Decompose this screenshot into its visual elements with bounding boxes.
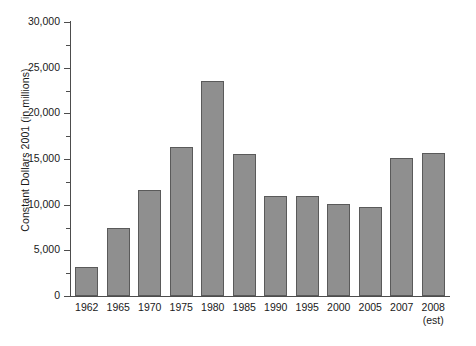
- x-tick-label-text: 1975: [170, 301, 193, 313]
- x-tick-label-text: 2005: [359, 301, 382, 313]
- y-tick-minor: [66, 45, 71, 46]
- bar: [327, 204, 350, 296]
- x-tick-label: 1980: [197, 301, 229, 314]
- x-tick-label-text: 1965: [107, 301, 130, 313]
- x-tick-label: 1962: [71, 301, 103, 314]
- y-tick-minor: [66, 136, 71, 137]
- y-tick-minor: [66, 228, 71, 229]
- y-tick-minor: [66, 273, 71, 274]
- x-tick-label: 1990: [260, 301, 292, 314]
- x-tick-label: 1985: [229, 301, 261, 314]
- y-tick-major: [64, 22, 71, 23]
- bar: [390, 158, 413, 296]
- bar: [233, 154, 256, 296]
- bar: [264, 196, 287, 296]
- y-tick-label-text: 30,000: [4, 15, 60, 27]
- y-tick-label-text: 15,000: [4, 152, 60, 164]
- x-tick-label-text: 1980: [201, 301, 224, 313]
- y-tick-major: [64, 250, 71, 251]
- y-tick-major: [64, 159, 71, 160]
- y-tick-major: [64, 68, 71, 69]
- x-tick-label: 1970: [134, 301, 166, 314]
- x-tick-label: 2008(est): [418, 301, 450, 326]
- y-tick-major: [64, 205, 71, 206]
- y-tick-label-text: 10,000: [4, 198, 60, 210]
- bar: [201, 81, 224, 296]
- bar-chart: Constant Dollars 2001 (in millions) 05,0…: [0, 0, 476, 346]
- y-tick-major: [64, 296, 71, 297]
- x-tick-label: 2005: [355, 301, 387, 314]
- y-tick-label-text: 5,000: [4, 243, 60, 255]
- x-tick-label: 1995: [292, 301, 324, 314]
- x-tick-label: 2000: [323, 301, 355, 314]
- x-tick-label-text: 2008: [422, 301, 445, 313]
- x-tick-label-text: 1962: [75, 301, 98, 313]
- y-tick-minor: [66, 91, 71, 92]
- y-tick-label-text: 25,000: [4, 61, 60, 73]
- y-tick-major: [64, 113, 71, 114]
- bar: [359, 207, 382, 296]
- x-tick-label: 2007: [386, 301, 418, 314]
- y-tick-minor: [66, 182, 71, 183]
- x-tick-label-text: 2007: [390, 301, 413, 313]
- bar: [422, 153, 445, 296]
- bar: [107, 228, 130, 297]
- x-axis-line: [70, 296, 450, 297]
- bar: [75, 267, 98, 296]
- y-tick-label-text: 0: [4, 289, 60, 301]
- x-tick-label-text: 2000: [327, 301, 350, 313]
- x-tick-sublabel-text: (est): [418, 314, 450, 327]
- x-tick-label-text: 1990: [264, 301, 287, 313]
- y-tick-label-text: 20,000: [4, 106, 60, 118]
- x-tick-label: 1965: [103, 301, 135, 314]
- x-tick-label-text: 1985: [233, 301, 256, 313]
- bar: [138, 190, 161, 296]
- x-tick-label-text: 1995: [296, 301, 319, 313]
- bar: [296, 196, 319, 296]
- bar: [170, 147, 193, 296]
- x-tick-label: 1975: [166, 301, 198, 314]
- x-tick-label-text: 1970: [138, 301, 161, 313]
